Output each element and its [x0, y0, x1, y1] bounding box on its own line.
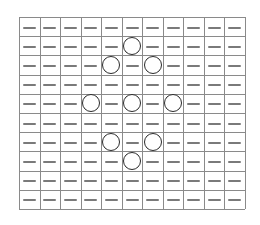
dash-marker: [105, 84, 118, 86]
dash-marker: [208, 199, 221, 201]
dash-marker: [146, 84, 159, 86]
grid-horizontal-line: [19, 132, 245, 133]
dash-marker: [126, 199, 139, 201]
dash-marker: [84, 84, 97, 86]
grid-horizontal-line: [19, 209, 245, 210]
dash-marker: [167, 161, 180, 163]
circle-marker: [144, 133, 162, 151]
grid-vertical-line: [245, 17, 246, 209]
circle-marker: [82, 94, 100, 112]
circle-marker: [102, 133, 120, 151]
dash-marker: [187, 180, 200, 182]
dash-marker: [126, 180, 139, 182]
dash-marker: [228, 180, 241, 182]
dash-marker: [208, 180, 221, 182]
dash-marker: [187, 27, 200, 29]
dash-marker: [167, 65, 180, 67]
dash-marker: [43, 199, 56, 201]
dash-marker: [64, 46, 77, 48]
dash-marker: [23, 180, 36, 182]
dash-marker: [126, 142, 139, 144]
dash-marker: [146, 123, 159, 125]
dash-marker: [208, 46, 221, 48]
dash-marker: [105, 199, 118, 201]
dash-marker: [167, 46, 180, 48]
dash-marker: [23, 103, 36, 105]
dash-marker: [208, 142, 221, 144]
grid-horizontal-line: [19, 17, 245, 18]
dash-marker: [64, 27, 77, 29]
circle-marker: [123, 94, 141, 112]
dash-marker: [228, 103, 241, 105]
dash-marker: [84, 46, 97, 48]
dash-marker: [167, 142, 180, 144]
dash-marker: [228, 46, 241, 48]
dash-marker: [208, 161, 221, 163]
dash-marker: [23, 161, 36, 163]
dash-marker: [187, 46, 200, 48]
dash-marker: [167, 180, 180, 182]
dash-marker: [146, 46, 159, 48]
dash-marker: [126, 65, 139, 67]
dash-marker: [146, 199, 159, 201]
dash-marker: [146, 27, 159, 29]
dash-marker: [105, 180, 118, 182]
dash-marker: [187, 84, 200, 86]
dash-marker: [105, 27, 118, 29]
dash-marker: [23, 46, 36, 48]
dash-marker: [167, 199, 180, 201]
dash-marker: [84, 142, 97, 144]
dash-marker: [105, 103, 118, 105]
dash-marker: [187, 65, 200, 67]
grid-horizontal-line: [19, 75, 245, 76]
dash-marker: [64, 199, 77, 201]
dash-marker: [167, 123, 180, 125]
dash-marker: [187, 123, 200, 125]
dash-marker: [43, 27, 56, 29]
dash-marker: [23, 123, 36, 125]
dash-marker: [208, 84, 221, 86]
dash-marker: [43, 142, 56, 144]
dash-marker: [126, 84, 139, 86]
dash-marker: [43, 180, 56, 182]
dash-marker: [208, 27, 221, 29]
circle-marker: [144, 56, 162, 74]
dash-marker: [228, 123, 241, 125]
dash-marker: [84, 199, 97, 201]
dash-marker: [167, 27, 180, 29]
dash-marker: [228, 27, 241, 29]
dash-marker: [64, 161, 77, 163]
dash-marker: [23, 84, 36, 86]
circle-marker: [164, 94, 182, 112]
dash-grid-board: [19, 17, 245, 209]
dash-marker: [146, 161, 159, 163]
dash-marker: [146, 103, 159, 105]
grid-horizontal-line: [19, 190, 245, 191]
dash-marker: [126, 27, 139, 29]
dash-marker: [105, 46, 118, 48]
dash-marker: [43, 84, 56, 86]
dash-marker: [187, 142, 200, 144]
dash-marker: [228, 142, 241, 144]
dash-marker: [23, 27, 36, 29]
dash-marker: [187, 103, 200, 105]
dash-marker: [64, 180, 77, 182]
dash-marker: [23, 142, 36, 144]
circle-marker: [123, 152, 141, 170]
dash-marker: [64, 103, 77, 105]
dash-marker: [228, 199, 241, 201]
dash-marker: [43, 161, 56, 163]
dash-marker: [187, 199, 200, 201]
dash-marker: [228, 84, 241, 86]
dash-marker: [187, 161, 200, 163]
dash-marker: [64, 65, 77, 67]
dash-marker: [167, 84, 180, 86]
dash-marker: [84, 180, 97, 182]
dash-marker: [43, 103, 56, 105]
dash-marker: [208, 103, 221, 105]
dash-marker: [208, 123, 221, 125]
dash-marker: [43, 65, 56, 67]
dash-marker: [84, 161, 97, 163]
dash-marker: [84, 65, 97, 67]
dash-marker: [228, 65, 241, 67]
